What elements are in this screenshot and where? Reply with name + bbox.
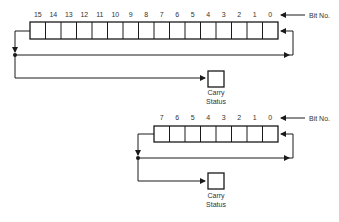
bit-number-label: 10 <box>111 11 119 18</box>
bit-number-label: 11 <box>96 11 103 18</box>
bit-number-label: 15 <box>34 11 42 18</box>
bit-number-label: 9 <box>129 11 133 18</box>
bit-number-label: 1 <box>253 114 257 121</box>
bit-number-labels: 1514131211109876543210 <box>34 11 272 18</box>
carry-wire <box>15 55 205 78</box>
msb-output-wire <box>138 134 154 155</box>
bit-no-label: Bit No. <box>309 115 330 122</box>
carry-status-box <box>208 71 224 87</box>
bit-number-label: 2 <box>237 114 241 121</box>
bit-number-label: 12 <box>80 11 88 18</box>
bit-number-label: 3 <box>222 11 226 18</box>
bit-number-label: 13 <box>65 11 73 18</box>
bit-number-label: 5 <box>191 114 195 121</box>
carry-label: Carry <box>207 192 225 200</box>
bit-number-label: 4 <box>206 114 210 121</box>
diagram-16-bit: 1514131211109876543210 Bit No. Carry Sta… <box>13 11 330 105</box>
carry-label: Carry <box>207 89 225 97</box>
register-cells <box>46 22 263 39</box>
bit-number-label: 6 <box>175 114 179 121</box>
feedback-return-wire <box>281 31 293 55</box>
msb-output-wire <box>15 31 30 52</box>
bit-number-label: 0 <box>268 11 272 18</box>
bit-number-label: 14 <box>49 11 57 18</box>
bit-number-label: 0 <box>268 114 272 121</box>
bit-no-label: Bit No. <box>309 12 330 19</box>
feedback-return-wire <box>281 134 293 158</box>
bit-number-label: 5 <box>191 11 195 18</box>
status-label: Status <box>206 201 226 208</box>
register-cells <box>170 126 263 142</box>
status-label: Status <box>206 98 226 105</box>
bit-number-label: 4 <box>206 11 210 18</box>
bit-number-label: 1 <box>253 11 257 18</box>
bit-number-label: 6 <box>175 11 179 18</box>
diagram-8-bit: 76543210 Bit No. Carry Status <box>136 114 330 208</box>
bit-number-labels: 76543210 <box>160 114 272 121</box>
carry-status-box <box>208 173 224 189</box>
bit-number-label: 8 <box>144 11 148 18</box>
bit-number-label: 3 <box>222 114 226 121</box>
bit-number-label: 7 <box>160 11 164 18</box>
carry-wire <box>138 158 205 181</box>
rotate-through-carry-diagram: 1514131211109876543210 Bit No. Carry Sta… <box>0 0 339 222</box>
bit-number-label: 2 <box>237 11 241 18</box>
bit-number-label: 7 <box>160 114 164 121</box>
